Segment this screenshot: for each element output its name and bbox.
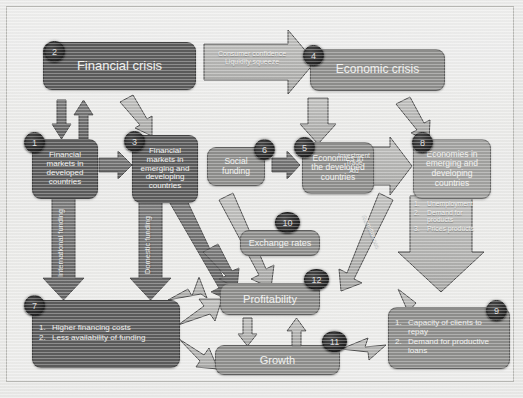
node-financing-costs-list: 1.Higher financing costs 2.Less availabi… bbox=[39, 324, 145, 344]
badge-10: 10 bbox=[275, 212, 300, 233]
arrow-developed-to-social bbox=[272, 151, 300, 179]
list-item: 2.Less availability of funding bbox=[39, 334, 145, 343]
arrow-crisis-to-markets bbox=[52, 100, 71, 139]
node-profitability[interactable]: Profitability bbox=[220, 283, 320, 315]
arrow-costs-to-profitability bbox=[178, 299, 222, 325]
list-item: 1.Capacity of clients to repay bbox=[395, 319, 503, 337]
arrow-remittances bbox=[339, 193, 393, 291]
badge-2: 2 bbox=[44, 41, 65, 62]
node-financing-costs[interactable]: 1.Higher financing costs 2.Less availabi… bbox=[32, 300, 180, 368]
arrow-into-costs-upper bbox=[168, 277, 207, 300]
arrow-economy-effects bbox=[398, 196, 484, 292]
badge-7: 7 bbox=[24, 295, 45, 316]
badge-8: 8 bbox=[412, 132, 433, 153]
badge-11: 11 bbox=[322, 331, 347, 352]
diagram-canvas: Financial crisis 2 Economic crisis 4 Fin… bbox=[0, 0, 523, 398]
arrow-costs-to-growth bbox=[179, 339, 218, 369]
badge-6: 6 bbox=[254, 139, 275, 160]
node-social-funding-label: Social funding bbox=[211, 157, 261, 176]
node-profitability-label: Profitability bbox=[224, 293, 316, 305]
node-financial-crisis[interactable]: Financial crisis bbox=[43, 42, 196, 90]
arrow-international-funding bbox=[43, 192, 84, 300]
node-growth[interactable]: Growth bbox=[215, 345, 340, 375]
node-economic-crisis-label: Economic crisis bbox=[314, 63, 441, 76]
badge-1: 1 bbox=[24, 132, 45, 153]
list-item: 2.Demand for productive loans bbox=[395, 338, 503, 356]
node-financial-markets-developed-label: Financial markets in developed countries bbox=[36, 151, 94, 187]
badge-3: 3 bbox=[124, 131, 145, 152]
arrow-developed-to-emerging bbox=[99, 151, 132, 179]
node-economies-emerging-label: Economies in emerging and developing cou… bbox=[417, 150, 487, 188]
node-clients-capacity-list: 1.Capacity of clients to repay 2.Demand … bbox=[395, 319, 503, 357]
badge-5: 5 bbox=[294, 137, 315, 158]
arrow-markets-to-crisis bbox=[74, 100, 93, 139]
arrow-domestic-funding bbox=[130, 196, 171, 300]
node-financial-crisis-label: Financial crisis bbox=[47, 59, 192, 74]
list-item: 1.Higher financing costs bbox=[39, 324, 145, 333]
node-financial-markets-emerging-label: Financial markets in emerging and develo… bbox=[136, 147, 194, 192]
node-exchange-rates[interactable]: Exchange rates bbox=[240, 230, 320, 256]
node-economies-developed-label: Economies in the developed countries bbox=[306, 154, 370, 183]
badge-12: 12 bbox=[304, 269, 329, 290]
node-growth-label: Growth bbox=[219, 354, 336, 366]
node-economic-crisis[interactable]: Economic crisis bbox=[310, 49, 445, 91]
arrow-growth-to-clients bbox=[341, 338, 386, 360]
node-exchange-rates-label: Exchange rates bbox=[244, 238, 316, 248]
arrow-consumer-confidence bbox=[204, 30, 315, 94]
badge-4: 4 bbox=[303, 45, 324, 66]
badge-9: 9 bbox=[486, 300, 507, 321]
arrow-crisis-to-emerging bbox=[120, 95, 152, 136]
